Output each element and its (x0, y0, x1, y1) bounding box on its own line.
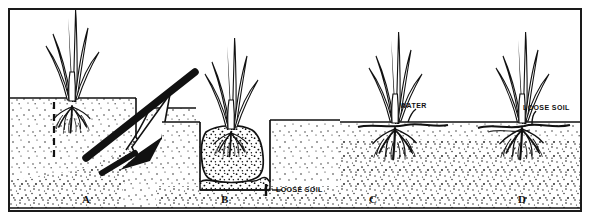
panel-letter-d: D (518, 194, 526, 205)
figure-canvas: LOOSE SOIL WATER LOOSE SOIL A B C D (0, 0, 593, 224)
illustration-frame: LOOSE SOIL WATER LOOSE SOIL A B C D (8, 8, 582, 212)
loose-soil-callout-d: LOOSE SOIL (523, 104, 570, 111)
water-callout-c: WATER (400, 102, 427, 109)
panel-letter-c: C (369, 194, 377, 205)
panel-letter-b: B (221, 194, 228, 205)
loose-soil-callout-b: LOOSE SOIL (276, 186, 323, 193)
transplanting-illustration (10, 10, 580, 210)
panel-letter-a: A (82, 194, 90, 205)
